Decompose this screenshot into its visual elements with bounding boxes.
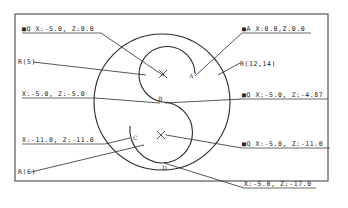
- point-d-label: D: [162, 164, 167, 171]
- upper-arc: [139, 46, 195, 102]
- leader-origin-a: [195, 33, 242, 76]
- label-start-point: ■Q X:-5.0, Z:0.0: [22, 25, 94, 33]
- label-r6: R(6): [18, 168, 36, 176]
- point-b-label: B: [158, 95, 163, 102]
- leader-r6: [31, 145, 144, 172]
- leader-r5: [33, 62, 146, 75]
- label-center-lower: ■Q X:-5.0, Z:-11.0: [242, 140, 323, 148]
- leader-c-point: [105, 138, 130, 144]
- label-b-point: X:-5.0, Z:-5.0: [22, 90, 85, 98]
- label-c-point: X:-11.0, Z:-11.0: [22, 136, 94, 144]
- point-c-label: C: [133, 134, 138, 141]
- leader-center-lower: [166, 135, 242, 148]
- diagram-svg: A B C D ■Q X:-5.0, Z:0.0 ■A X:0.0,Z:0.0 …: [0, 0, 348, 208]
- lower-center-mark: [157, 131, 165, 139]
- diagram-canvas: A B C D ■Q X:-5.0, Z:0.0 ■A X:0.0,Z:0.0 …: [0, 0, 348, 208]
- point-a-label: A: [188, 72, 194, 79]
- leader-start-point: [101, 33, 164, 76]
- label-tangent-right: ■Q X:-5.0, Z:-4.87: [242, 91, 323, 99]
- label-d-point: X:-5.0, Z:-17.0: [244, 180, 312, 188]
- label-origin-a: ■A X:0.0,Z:0.0: [242, 25, 305, 33]
- upper-center-mark: [159, 70, 167, 78]
- leader-b-point: [95, 98, 160, 103]
- label-r12-14: R(12,14): [240, 60, 276, 68]
- leader-d-point: [164, 163, 244, 188]
- lower-arc: [162, 102, 193, 163]
